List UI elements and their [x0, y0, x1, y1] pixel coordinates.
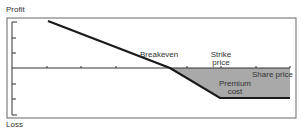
profit-label: Profit [6, 6, 25, 14]
premium-cost-label: Premium cost [215, 80, 255, 96]
strike-line2: price [203, 59, 239, 67]
breakeven-label: Breakeven [140, 51, 178, 59]
loss-label: Loss [6, 121, 23, 129]
payoff-chart [0, 0, 301, 131]
strike-price-label: Strike price [203, 51, 239, 67]
share-price-label: Share price [252, 71, 293, 79]
premium-line2: cost [215, 88, 255, 96]
